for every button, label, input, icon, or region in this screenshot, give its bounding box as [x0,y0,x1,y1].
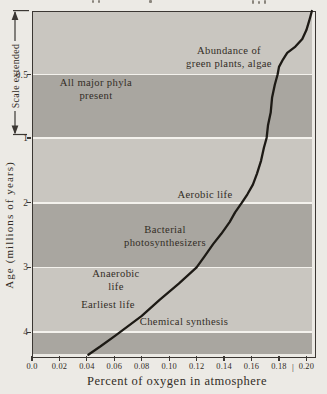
cropped-text-mark [149,0,152,3]
annotation-anaerobic-life: Anaerobic life [92,268,139,294]
x-tick-mark [59,356,60,361]
x-tick-mark [169,356,170,361]
annotation-abundance-green-plants-algae: Abundance of green plants, algae [186,45,272,71]
x-tick-label: 0.20 [291,362,321,371]
cropped-text-mark [258,1,260,4]
cropped-text-mark [252,0,254,4]
x-tick-mark [114,356,115,361]
figure-root: Abundance of green plants, algaeAll majo… [0,0,327,394]
scale-extended-label: Scale extended [10,44,21,109]
x-tick-mark [223,356,224,361]
x-tick-label: 0.02 [44,362,74,371]
x-tick-label: 0.18 [264,362,294,371]
x-tick-mark [196,356,197,361]
x-tick-mark [306,356,307,361]
y-tick-label: 4 [2,327,28,337]
cropped-text-mark [98,0,100,3]
x-tick-mark [86,356,87,361]
x-tick-label: 0.0 [17,362,47,371]
x-tick-label: 0.10 [154,362,184,371]
y-tick-label: 1 [2,133,28,143]
y-axis-title: Age (millions of years) [3,161,15,289]
x-tick-mark [31,356,32,361]
x-tick-label: 0.16 [237,362,267,371]
plot-border [32,11,316,358]
annotation-aerobic-life: Aerobic life [177,189,232,202]
annotation-bacterial-photosynthesizers: Bacterial photosynthesizers [124,224,206,250]
x-tick-label: 0.12 [182,362,212,371]
x-axis-title: Percent of oxygen in atmosphere [62,374,292,389]
cropped-text-mark [92,0,94,3]
annotation-chemical-synthesis: Chemical synthesis [140,316,228,329]
x-tick-label: 0.04 [72,362,102,371]
x-axis-break-mark: | [292,362,294,372]
x-tick-label: 0.06 [99,362,129,371]
cropped-text-mark [264,0,266,4]
annotation-earliest-life: Earliest life [81,299,135,312]
annotation-all-major-phyla-present: All major phyla present [60,77,132,103]
x-tick-label: 0.08 [127,362,157,371]
x-tick-label: 0.14 [209,362,239,371]
x-tick-mark [278,356,279,361]
x-tick-mark [141,356,142,361]
x-tick-mark [251,356,252,361]
